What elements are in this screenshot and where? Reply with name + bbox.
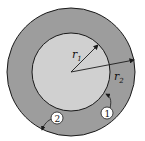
- concentric-circles-diagram: r1 r2 1 2: [0, 0, 145, 141]
- surface2-label: 2: [55, 114, 61, 124]
- surface1-label: 1: [105, 109, 111, 119]
